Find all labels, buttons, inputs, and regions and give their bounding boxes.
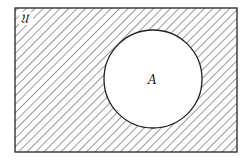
set-a-label: A: [147, 73, 157, 87]
venn-diagram: 𝔘 A: [0, 0, 252, 163]
